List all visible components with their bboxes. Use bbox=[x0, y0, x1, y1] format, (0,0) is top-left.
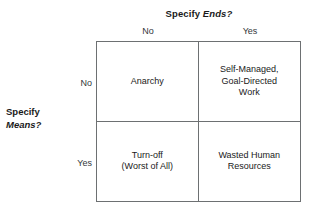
row-axis-title-prefix: Specify bbox=[6, 106, 64, 119]
matrix-grid: Anarchy Self-Managed, Goal-Directed Work… bbox=[96, 41, 301, 202]
row-axis-title-emphasis: Means? bbox=[6, 119, 64, 132]
matrix-cell-label: Self-Managed, Goal-Directed Work bbox=[220, 64, 279, 99]
matrix-cell-yes-means-yes-ends: Wasted Human Resources bbox=[199, 122, 301, 202]
two-by-two-matrix-diagram: Specify Ends? No Yes Specify Means? No Y… bbox=[0, 0, 319, 210]
row-header-yes: Yes bbox=[56, 158, 92, 169]
matrix-cell-label: Turn-off (Worst of All) bbox=[122, 150, 173, 173]
column-axis-title: Specify Ends? bbox=[97, 8, 301, 20]
matrix-cell-yes-means-no-ends: Turn-off (Worst of All) bbox=[97, 122, 199, 202]
column-header-no: No bbox=[97, 26, 199, 37]
row-axis-title: Specify Means? bbox=[6, 106, 64, 131]
row-header-no: No bbox=[56, 78, 92, 89]
matrix-cell-no-means-no-ends: Anarchy bbox=[97, 42, 199, 122]
column-axis-title-emphasis: Ends? bbox=[203, 8, 233, 19]
column-axis-title-prefix: Specify bbox=[166, 8, 203, 19]
matrix-cell-label: Wasted Human Resources bbox=[218, 150, 280, 173]
column-header-yes: Yes bbox=[199, 26, 301, 37]
matrix-cell-no-means-yes-ends: Self-Managed, Goal-Directed Work bbox=[199, 42, 301, 122]
matrix-cell-label: Anarchy bbox=[131, 76, 164, 88]
